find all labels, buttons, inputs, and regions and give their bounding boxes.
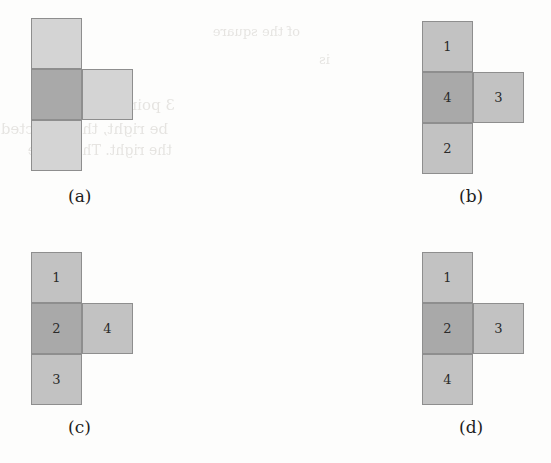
cell-label: 3 bbox=[52, 373, 60, 386]
cell-a-top bbox=[31, 18, 82, 69]
cell-label: 2 bbox=[52, 322, 60, 335]
cell-c-middle: 2 bbox=[31, 303, 82, 354]
cell-d-middle: 2 bbox=[422, 303, 473, 354]
cell-d-right: 3 bbox=[473, 303, 524, 354]
cell-label: 1 bbox=[443, 271, 451, 284]
cell-b-top: 1 bbox=[422, 21, 473, 72]
panel-label-d: (d) bbox=[459, 417, 483, 437]
cell-label: 4 bbox=[443, 91, 451, 104]
panel-label-b: (b) bbox=[459, 186, 483, 206]
cell-label: 4 bbox=[103, 322, 111, 335]
cell-label: 1 bbox=[443, 40, 451, 53]
panel-label-a: (a) bbox=[68, 186, 91, 206]
cell-a-bottom bbox=[31, 120, 82, 171]
cell-c-bottom: 3 bbox=[31, 354, 82, 405]
cell-b-middle: 4 bbox=[422, 72, 473, 123]
cell-d-bottom: 4 bbox=[422, 354, 473, 405]
cell-label: 1 bbox=[52, 271, 60, 284]
cell-d-top: 1 bbox=[422, 252, 473, 303]
panel-label-c: (c) bbox=[68, 417, 91, 437]
cell-a-middle bbox=[31, 69, 82, 120]
cell-a-right bbox=[82, 69, 133, 120]
cell-label: 2 bbox=[443, 322, 451, 335]
cell-label: 3 bbox=[494, 322, 502, 335]
cell-label: 3 bbox=[494, 91, 502, 104]
cell-label: 4 bbox=[443, 373, 451, 386]
cell-b-right: 3 bbox=[473, 72, 524, 123]
figure-polyomino-grid: (a) 1 4 3 2 (b) 1 2 bbox=[0, 0, 551, 463]
cell-c-right: 4 bbox=[82, 303, 133, 354]
cell-label: 2 bbox=[443, 142, 451, 155]
cell-c-top: 1 bbox=[31, 252, 82, 303]
cell-b-bottom: 2 bbox=[422, 123, 473, 174]
